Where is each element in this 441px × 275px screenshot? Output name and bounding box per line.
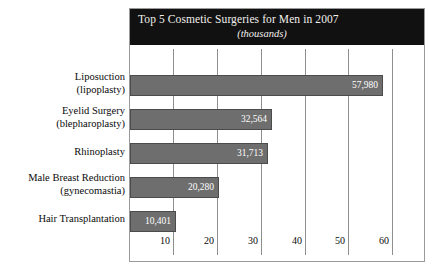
bar-value-label: 10,401 — [145, 215, 171, 228]
x-tick-label-60: 60 — [353, 234, 389, 247]
x-tick-label-10: 10 — [134, 234, 170, 247]
bar-male-breast-reduction[interactable]: 20,280 — [130, 177, 219, 198]
x-tick-label-40: 40 — [266, 234, 302, 247]
bar-liposuction[interactable]: 57,980 — [130, 75, 383, 96]
chart-subtitle: (thousands) — [138, 27, 414, 41]
category-label-line2: (gynecomastia) — [0, 184, 125, 197]
x-tick-label-20: 20 — [178, 234, 214, 247]
bar-value-label: 32,564 — [241, 113, 267, 126]
chart-frame: Top 5 Cosmetic Surgeries for Men in 2007… — [129, 8, 425, 262]
bar-hair-transplantation[interactable]: 10,401 — [130, 211, 176, 232]
x-tick-label-50: 50 — [309, 234, 345, 247]
chart-title-band: Top 5 Cosmetic Surgeries for Men in 2007… — [130, 9, 424, 45]
bar-rhinoplasty[interactable]: 31,713 — [130, 143, 268, 164]
bars-layer: 57,980 32,564 31,713 20,280 — [130, 45, 424, 261]
category-label-line1: Male Breast Reduction — [28, 172, 125, 183]
bar-value-label: 57,980 — [352, 79, 378, 92]
category-label-line1: Rhinoplasty — [74, 146, 125, 157]
category-label-line1: Hair Transplantation — [38, 213, 125, 224]
category-label-rhinoplasty: Rhinoplasty — [0, 145, 125, 158]
bar-value-label: 20,280 — [188, 181, 214, 194]
category-label-line2: (lipoplasty) — [0, 83, 125, 96]
category-label-hair-transplantation: Hair Transplantation — [0, 212, 125, 225]
category-label-male-breast-reduction: Male Breast Reduction (gynecomastia) — [0, 171, 125, 197]
bar-value-label: 31,713 — [237, 147, 263, 160]
x-tick-label-30: 30 — [222, 234, 258, 247]
category-label-liposuction: Liposuction (lipoplasty) — [0, 70, 125, 96]
category-label-line1: Eyelid Surgery — [62, 105, 125, 116]
category-label-eyelid-surgery: Eyelid Surgery (blepharoplasty) — [0, 104, 125, 130]
page-title: Top 5 Cosmetic Surgeries for Men in 2007 — [138, 12, 414, 27]
category-axis-labels: Liposuction (lipoplasty) Eyelid Surgery … — [0, 0, 125, 275]
category-label-line1: Liposuction — [75, 71, 125, 82]
category-label-line2: (blepharoplasty) — [0, 117, 125, 130]
plot-area: 57,980 32,564 31,713 20,280 — [130, 45, 424, 261]
bar-eyelid-surgery[interactable]: 32,564 — [130, 109, 272, 130]
x-axis-tick-labels: 10 20 30 40 50 60 — [130, 233, 424, 247]
